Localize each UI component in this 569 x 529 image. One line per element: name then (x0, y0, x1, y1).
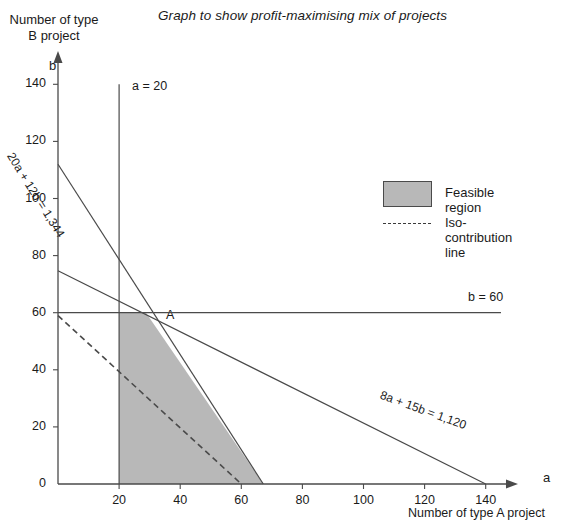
feasible-region-layer (119, 313, 263, 484)
plot-svg (0, 0, 569, 529)
x-axis-arrowhead (506, 480, 518, 489)
y-axis-arrowhead (54, 51, 63, 63)
feasible-region (119, 313, 263, 484)
chart-canvas: Graph to show profit-maximising mix of p… (0, 0, 569, 529)
